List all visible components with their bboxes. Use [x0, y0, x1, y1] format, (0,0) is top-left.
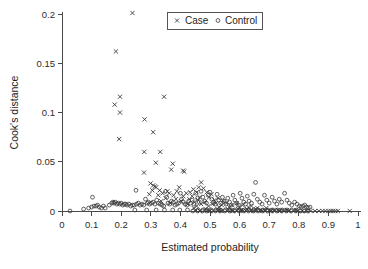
data-point-case — [142, 117, 146, 121]
data-point-case — [181, 194, 185, 198]
data-point-case — [130, 11, 134, 15]
data-point-case — [162, 95, 166, 99]
x-tick-label: 0.8 — [292, 219, 305, 230]
data-point-control — [238, 191, 242, 195]
x-axis-title: Estimated probability — [161, 241, 259, 253]
x-tick-label: 1 — [355, 219, 360, 230]
data-point-case — [113, 103, 117, 107]
data-point-case — [167, 191, 171, 195]
data-point-case — [118, 110, 122, 114]
data-point-control — [82, 207, 86, 211]
data-point-case — [147, 192, 151, 196]
data-point-case — [150, 188, 154, 192]
x-tick-label: 0.4 — [174, 219, 187, 230]
case-points-group — [113, 11, 352, 213]
data-point-case — [175, 189, 179, 193]
data-point-control — [267, 201, 271, 205]
data-point-case — [142, 170, 146, 174]
data-point-case — [201, 186, 205, 190]
y-ticks-group: 00.050.10.150.2 — [37, 9, 63, 217]
data-point-control — [215, 192, 219, 196]
data-point-case — [188, 190, 192, 194]
data-point-control — [252, 192, 256, 196]
data-point-case — [156, 193, 160, 197]
data-point-control — [134, 188, 138, 192]
x-tick-label: 0.6 — [233, 219, 246, 230]
x-tick-label: 0.7 — [263, 219, 276, 230]
data-point-case — [195, 190, 199, 194]
data-point-control — [226, 196, 230, 200]
data-point-case — [151, 130, 155, 134]
y-axis-title: Cook's distance — [8, 75, 20, 149]
legend: CaseControl — [167, 12, 262, 29]
data-point-control — [283, 191, 287, 195]
data-point-control — [275, 202, 279, 206]
data-point-control — [263, 193, 267, 197]
x-tick-label: 0.9 — [322, 219, 335, 230]
data-point-case — [148, 181, 152, 185]
x-tick-label: 0.5 — [203, 219, 216, 230]
y-tick-label: 0.1 — [42, 107, 55, 118]
axes-group — [60, 12, 361, 211]
data-point-control — [280, 200, 284, 204]
data-point-case — [114, 49, 118, 53]
legend-control-label: Control — [225, 15, 257, 26]
data-point-control — [245, 194, 249, 198]
data-point-case — [174, 197, 178, 201]
data-point-control — [240, 196, 244, 200]
data-point-control — [221, 195, 225, 199]
x-tick-label: 0.3 — [144, 219, 157, 230]
y-tick-label: 0.05 — [37, 156, 56, 167]
data-point-case — [177, 185, 181, 189]
legend-case-label: Case — [185, 15, 209, 26]
x-tick-label: 0 — [59, 219, 64, 230]
data-point-case — [199, 180, 203, 184]
data-point-case — [164, 196, 168, 200]
data-point-case — [169, 168, 173, 172]
plot-canvas: 00.050.10.150.200.10.20.30.40.50.60.70.8… — [0, 0, 368, 269]
data-point-control — [254, 181, 258, 185]
data-point-control — [270, 195, 274, 199]
data-point-case — [171, 162, 175, 166]
y-tick-label: 0.2 — [42, 9, 55, 20]
data-point-case — [142, 150, 146, 154]
data-point-case — [161, 191, 165, 195]
data-point-case — [154, 161, 158, 165]
x-tick-label: 0.2 — [115, 219, 128, 230]
y-tick-label: 0 — [50, 206, 55, 217]
data-point-control — [91, 195, 95, 199]
data-point-case — [171, 193, 175, 197]
data-point-case — [182, 170, 186, 174]
data-point-case — [158, 150, 162, 154]
data-point-case — [117, 137, 121, 141]
x-ticks-group: 00.10.20.30.40.50.60.70.80.91 — [59, 211, 360, 230]
data-point-case — [118, 95, 122, 99]
cooks-distance-scatter-figure: 00.050.10.150.200.10.20.30.40.50.60.70.8… — [0, 0, 368, 269]
data-point-case — [197, 185, 201, 189]
y-tick-label: 0.15 — [37, 58, 56, 69]
x-tick-label: 0.1 — [85, 219, 98, 230]
data-point-control — [231, 193, 235, 197]
